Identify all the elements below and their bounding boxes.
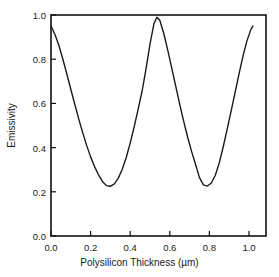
y-tick-label: 1.0 bbox=[20, 10, 46, 21]
y-axis-title-wrap: Emissivity bbox=[2, 0, 20, 251]
x-tick-label: 0.2 bbox=[84, 242, 97, 253]
x-tick-label: 0.6 bbox=[163, 242, 176, 253]
y-tick-label: 0.6 bbox=[20, 98, 46, 109]
x-tick-label: 0.0 bbox=[44, 242, 57, 253]
y-tick-label: 0.4 bbox=[20, 142, 46, 153]
y-tick-label: 0.8 bbox=[20, 54, 46, 65]
x-tick-label: 1.0 bbox=[242, 242, 255, 253]
y-axis-title: Emissivity bbox=[6, 103, 17, 147]
plot-background bbox=[51, 15, 266, 236]
x-axis-title: Polysilicon Thickness (µm) bbox=[0, 257, 279, 268]
x-tick-label: 0.4 bbox=[124, 242, 137, 253]
x-tick-label: 0.8 bbox=[203, 242, 216, 253]
y-tick-label: 0.0 bbox=[20, 231, 46, 242]
chart-figure: 0.00.20.40.60.81.0 0.00.20.40.60.81.0 Em… bbox=[0, 0, 279, 277]
y-tick-label: 0.2 bbox=[20, 186, 46, 197]
